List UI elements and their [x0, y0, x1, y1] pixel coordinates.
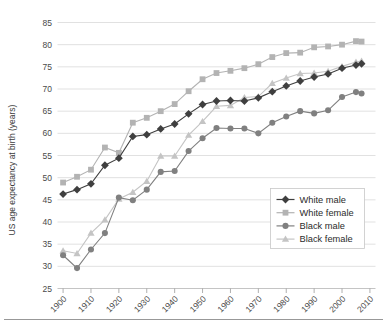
marker-square — [186, 88, 192, 94]
marker-circle — [88, 246, 94, 252]
marker-circle — [353, 89, 359, 95]
x-tick-label: 1920 — [104, 294, 125, 315]
marker-square — [325, 44, 331, 50]
marker-triangle — [101, 216, 108, 222]
marker-circle — [311, 110, 317, 116]
legend-label: White male — [300, 195, 347, 205]
marker-square — [214, 70, 220, 76]
x-tick-label: 2010 — [355, 294, 376, 315]
y-tick-label: 50 — [43, 173, 53, 183]
marker-square — [102, 145, 108, 151]
legend-label: White female — [300, 208, 354, 218]
marker-square — [297, 50, 303, 56]
x-tick-label: 1990 — [299, 294, 320, 315]
marker-circle — [144, 187, 150, 193]
marker-circle — [282, 223, 288, 229]
marker-circle — [172, 168, 178, 174]
y-tick-label: 75 — [43, 62, 53, 72]
chart-legend: White maleWhite femaleBlack maleBlack fe… — [271, 189, 365, 249]
marker-circle — [130, 197, 136, 203]
marker-diamond — [143, 131, 151, 139]
x-axis-ticks: 1900191019201930194019501960197019801990… — [48, 289, 375, 315]
marker-square — [228, 68, 234, 74]
marker-circle — [74, 265, 80, 271]
marker-square — [241, 65, 247, 71]
marker-square — [339, 42, 345, 48]
y-tick-label: 45 — [43, 195, 53, 205]
marker-square — [255, 61, 261, 67]
marker-triangle — [269, 80, 276, 86]
marker-diamond — [59, 190, 67, 198]
y-tick-label: 70 — [43, 84, 53, 94]
x-tick-label: 1910 — [76, 294, 97, 315]
marker-diamond — [171, 120, 179, 128]
marker-diamond — [213, 97, 221, 105]
y-tick-label: 80 — [43, 40, 53, 50]
marker-square — [158, 108, 164, 114]
chart-figure: 25303540455055606570758085 1900191019201… — [0, 0, 387, 330]
marker-diamond — [157, 125, 165, 133]
marker-square — [359, 39, 365, 45]
marker-square — [172, 101, 178, 107]
marker-diamond — [240, 97, 248, 105]
marker-diamond — [296, 77, 304, 85]
marker-diamond — [199, 101, 207, 109]
legend-label: Black female — [300, 234, 353, 244]
marker-square — [269, 54, 275, 60]
marker-square — [144, 115, 150, 121]
x-tick-label: 1900 — [48, 294, 69, 315]
legend-label: Black male — [300, 221, 345, 231]
marker-square — [283, 210, 289, 216]
marker-circle — [102, 230, 108, 236]
marker-diamond — [87, 180, 95, 188]
x-tick-label: 2000 — [327, 294, 348, 315]
series-line — [63, 41, 361, 182]
marker-square — [353, 38, 359, 44]
marker-circle — [116, 195, 122, 201]
y-tick-label: 65 — [43, 106, 53, 116]
y-tick-label: 55 — [43, 151, 53, 161]
y-axis-title: US age expectancy at birth (years) — [7, 104, 17, 235]
marker-square — [130, 120, 136, 126]
marker-circle — [339, 94, 345, 100]
series-white-male — [59, 60, 365, 198]
marker-square — [283, 50, 289, 56]
marker-circle — [255, 130, 261, 136]
marker-circle — [200, 135, 206, 141]
marker-square — [88, 167, 94, 173]
marker-triangle — [143, 178, 150, 184]
y-axis-ticks: 25303540455055606570758085 — [43, 18, 53, 294]
x-tick-label: 1980 — [271, 294, 292, 315]
marker-circle — [158, 169, 164, 175]
x-tick-label: 1970 — [243, 294, 264, 315]
marker-square — [74, 174, 80, 180]
y-tick-label: 60 — [43, 128, 53, 138]
series-line — [63, 64, 361, 194]
marker-circle — [269, 120, 275, 126]
marker-circle — [283, 113, 289, 119]
marker-circle — [325, 107, 331, 113]
y-tick-label: 25 — [43, 284, 53, 294]
marker-diamond — [73, 186, 81, 194]
marker-diamond — [101, 161, 109, 169]
marker-circle — [60, 252, 66, 258]
marker-square — [200, 76, 206, 82]
marker-circle — [213, 125, 219, 131]
marker-square — [311, 44, 317, 50]
line-chart: 25303540455055606570758085 1900191019201… — [0, 0, 387, 330]
y-tick-label: 35 — [43, 239, 53, 249]
x-tick-label: 1930 — [132, 294, 153, 315]
marker-circle — [297, 108, 303, 114]
marker-circle — [227, 125, 233, 131]
x-tick-label: 1940 — [160, 294, 181, 315]
y-tick-label: 85 — [43, 18, 53, 28]
marker-diamond — [254, 94, 262, 102]
marker-circle — [241, 125, 247, 131]
marker-circle — [186, 148, 192, 154]
y-tick-label: 40 — [43, 217, 53, 227]
x-tick-label: 1960 — [215, 294, 236, 315]
marker-circle — [359, 90, 365, 96]
x-tick-label: 1950 — [188, 294, 209, 315]
y-tick-label: 30 — [43, 261, 53, 271]
marker-square — [60, 180, 66, 186]
